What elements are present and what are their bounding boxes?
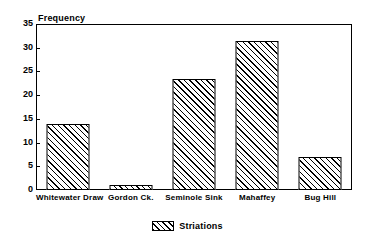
y-axis-label: Frequency: [38, 13, 85, 23]
bar-slot: [36, 24, 99, 190]
y-tick-label: 0: [13, 184, 33, 194]
legend: Striations: [0, 221, 375, 231]
x-axis-tick-label: Gordon Ck.: [99, 193, 162, 202]
y-tick-label: 35: [13, 18, 33, 28]
bar-slot: [289, 24, 352, 190]
x-axis-tick-label: Whitewater Draw: [36, 193, 99, 202]
x-axis-tick-label: Bug Hill: [289, 193, 352, 202]
bar: [109, 185, 152, 190]
y-tick-label: 10: [13, 137, 33, 147]
y-tick-label: 5: [13, 160, 33, 170]
y-tick-label: 20: [13, 89, 33, 99]
bar-slot: [99, 24, 162, 190]
bar: [46, 124, 89, 190]
x-axis-labels: Whitewater DrawGordon Ck.Seminole SinkMa…: [36, 193, 352, 207]
x-axis-tick-label: Seminole Sink: [162, 193, 225, 202]
bar-slot: [162, 24, 225, 190]
legend-swatch-striations-icon: [152, 221, 174, 231]
y-tick-label: 15: [13, 113, 33, 123]
bar: [172, 79, 215, 190]
bar-slot: [226, 24, 289, 190]
bar-chart: Frequency 05101520253035 Whitewater Draw…: [0, 0, 375, 246]
bars-layer: [36, 24, 352, 190]
bar: [236, 41, 279, 190]
y-tick-label: 25: [13, 65, 33, 75]
y-tick-label: 30: [13, 42, 33, 52]
legend-label-striations: Striations: [179, 221, 223, 231]
x-axis-tick-label: Mahaffey: [226, 193, 289, 202]
bar: [299, 157, 342, 190]
